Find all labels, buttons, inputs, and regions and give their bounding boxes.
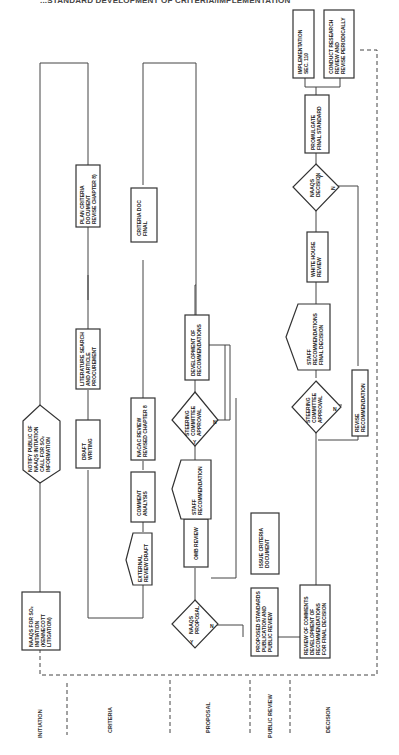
phase-initiation: INITIATION xyxy=(37,709,43,738)
svg-text:REVISE CHAPTER 8): REVISE CHAPTER 8) xyxy=(91,174,97,224)
node-white-house-review: WHITE HOUSE REVIEW xyxy=(307,232,328,282)
phase-separators xyxy=(67,680,290,735)
svg-text:FINAL STANDARD: FINAL STANDARD xyxy=(316,106,322,150)
svg-text:N: N xyxy=(210,623,214,629)
svg-text:APPROVAL: APPROVAL xyxy=(317,396,323,423)
svg-text:N: N xyxy=(333,406,337,412)
node-staff-rec-final: STAFF RECOMMENDATIONS FINAL DECISION xyxy=(286,304,330,370)
node-implementation: IMPLEMENTATION SEC. 110 xyxy=(293,10,314,78)
svg-text:SEC. 110: SEC. 110 xyxy=(303,53,309,74)
node-revise-recommendation: REVISE RECOMMENDATION xyxy=(352,370,368,436)
svg-text:N: N xyxy=(213,419,217,425)
svg-text:REVISED CHAPTER 8: REVISED CHAPTER 8 xyxy=(142,405,148,457)
node-notify-public: NOTIFY PUBLIC OF NAAQS INITIATION CALL F… xyxy=(23,405,60,483)
node-draft-writing: DRAFT WRITING xyxy=(76,420,100,468)
svg-text:ANALYSIS: ANALYSIS xyxy=(142,491,148,516)
node-naaqs-initiation: NAAQS FOR SO₂ INITIATION (KENNECOTT LITI… xyxy=(22,592,60,650)
node-literature-search: LITERATURE SEARCH AND ARTICLE PROCUREMEN… xyxy=(76,329,100,389)
phase-public-review: PUBLIC REVIEW xyxy=(267,693,273,738)
node-conduct-research: CONDUCT RESEARCH REVIEW AND REVISE PERIO… xyxy=(324,10,354,78)
node-steering-approval-1: STEERING COMMITTEE APPROVAL Y N xyxy=(172,392,218,446)
node-naaqs-proposal: NAAQS PROPOSAL Y N xyxy=(172,600,218,648)
node-proposed-standards: PROPOSED STANDARDS PUBLICATION AND PUBLI… xyxy=(251,588,278,656)
svg-text:FOR FINAL DECISION: FOR FINAL DECISION xyxy=(321,602,327,655)
node-plan-criteria: PLAN CRITERIA DOCUMENT REVISE CHAPTER 8) xyxy=(76,165,100,227)
svg-text:N: N xyxy=(330,186,336,190)
node-nacac-review: NACAC REVIEW REVISED CHAPTER 8 xyxy=(131,398,155,460)
flowchart: INITIATION CRITERIA PROPOSAL PUBLIC REVI… xyxy=(0,0,399,755)
phase-criteria: CRITERIA xyxy=(107,707,113,733)
svg-text:REVISE PERIODICALLY: REVISE PERIODICALLY xyxy=(340,17,346,74)
svg-text:REVIEW: REVIEW xyxy=(316,257,322,277)
node-review-comments: REVIEW OF COMMENTS DEVELOPMENT OF RECOMM… xyxy=(300,585,330,658)
node-omb-review: OMB REVIEW xyxy=(184,519,208,567)
node-dev-recommendations: DEVELOPMENT OF RECOMMENDATIONS xyxy=(185,315,209,380)
svg-text:PROCUREMENT: PROCUREMENT xyxy=(91,347,97,386)
node-steering-approval-2: STEERING COMMITTEE APPROVAL N xyxy=(292,381,341,433)
phase-decision: DECISION xyxy=(325,706,331,733)
svg-text:RECOMMENDATION: RECOMMENDATION xyxy=(360,383,366,432)
node-staff-recommendation: STAFF RECOMMENDATION xyxy=(172,460,211,519)
svg-text:FINAL DECISION: FINAL DECISION xyxy=(318,324,324,365)
svg-text:DOCUMENT: DOCUMENT xyxy=(264,539,270,568)
svg-text:APPROVAL: APPROVAL xyxy=(196,409,202,436)
svg-text:INFORMATION: INFORMATION xyxy=(45,437,51,472)
svg-text:OMB REVIEW: OMB REVIEW xyxy=(193,527,199,560)
node-external-review: EXTERNAL REVIEW DRAFT xyxy=(126,533,152,585)
node-promulgate: PROMULGATE FINAL STANDARD xyxy=(305,95,329,153)
svg-text:FINAL: FINAL xyxy=(142,221,148,236)
svg-text:WRITING: WRITING xyxy=(87,438,93,460)
node-issue-criteria: ISSUE CRITERIA DOCUMENT xyxy=(251,513,279,574)
phase-proposal: PROPOSAL xyxy=(205,701,211,733)
svg-text:RECOMMENDATION: RECOMMENDATION xyxy=(197,466,203,515)
svg-text:PROPOSAL: PROPOSAL xyxy=(194,606,200,634)
node-comment-analysis: COMMENT ANALYSIS xyxy=(131,472,155,522)
svg-text:RECOMMENDATIONS: RECOMMENDATIONS xyxy=(196,323,202,376)
node-criteria-doc-final: CRITERIA DOC FINAL xyxy=(131,188,157,242)
svg-text:PUBLIC REVIEW: PUBLIC REVIEW xyxy=(267,612,273,652)
node-naaqs-decision: NAAQS DECISION Y N xyxy=(293,164,339,211)
phase-labels: INITIATION CRITERIA PROPOSAL PUBLIC REVI… xyxy=(37,693,331,738)
svg-text:REVIEW DRAFT: REVIEW DRAFT xyxy=(143,544,149,582)
svg-text:LITIGATION): LITIGATION) xyxy=(46,617,52,647)
